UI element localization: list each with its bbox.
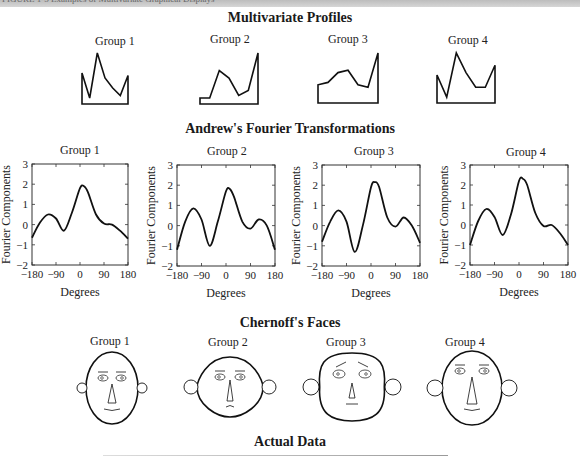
right-ear <box>501 380 517 396</box>
pupil <box>218 376 221 379</box>
pupil <box>121 377 124 380</box>
pupil <box>101 377 104 380</box>
chernoff-faces <box>77 351 517 425</box>
x-tick-label: −180 <box>459 268 482 280</box>
x-tick-label: 0 <box>516 268 522 280</box>
face-outline <box>442 351 502 425</box>
nose <box>467 377 477 404</box>
x-axis-label: Degrees <box>60 285 100 299</box>
x-tick-label: 0 <box>223 269 229 281</box>
profile-group-2 <box>200 53 258 104</box>
left-ear <box>184 380 198 394</box>
mouth <box>464 409 480 411</box>
y-axis-label: Fourier Components <box>437 165 451 264</box>
pupil <box>240 376 243 379</box>
y-tick-label: 0 <box>461 219 467 231</box>
nose <box>227 380 233 401</box>
x-tick-label: −90 <box>47 268 65 280</box>
x-tick-label: 0 <box>77 268 83 280</box>
y-tick-label: −1 <box>16 239 28 251</box>
x-tick-label: 90 <box>245 269 257 281</box>
fourier-plot-group-1: 3210−1−2−180−90090180DegreesFourier Comp… <box>0 158 137 299</box>
right-ear <box>262 380 276 394</box>
x-axis-label: Degrees <box>499 285 539 299</box>
fourier-curve <box>32 185 128 238</box>
x-tick-label: 180 <box>267 269 284 281</box>
y-tick-label: 3 <box>461 159 467 171</box>
fourier-plot-group-2: 3210−1−2−180−90090180DegreesFourier Comp… <box>144 159 284 300</box>
profile-group-1 <box>82 53 128 104</box>
multivariate-profiles <box>82 53 495 104</box>
y-tick-label: −1 <box>454 239 466 251</box>
fourier-plot-group-3: 3210−1−2−180−90090180DegreesFourier Comp… <box>289 159 429 300</box>
y-tick-label: 2 <box>168 179 174 191</box>
fourier-curve <box>322 182 420 252</box>
profile-group-4 <box>437 53 495 103</box>
y-tick-label: 1 <box>461 199 467 211</box>
charts-canvas: 3210−1−2−180−90090180DegreesFourier Comp… <box>0 0 580 457</box>
fourier-curve <box>470 177 568 245</box>
right-ear <box>385 379 401 395</box>
y-tick-label: 3 <box>313 159 319 171</box>
fourier-curve <box>177 188 275 250</box>
y-tick-label: 2 <box>461 179 467 191</box>
x-tick-label: 180 <box>412 269 429 281</box>
y-tick-label: 2 <box>313 179 319 191</box>
face-group-4 <box>427 351 517 425</box>
x-tick-label: 90 <box>390 269 402 281</box>
pupil <box>337 373 340 376</box>
x-tick-label: 90 <box>538 268 550 280</box>
y-tick-label: 1 <box>313 199 319 211</box>
x-tick-label: 90 <box>99 268 111 280</box>
left-ear <box>77 383 87 393</box>
y-axis-label: Fourier Components <box>0 165 13 264</box>
left-ear <box>303 379 319 395</box>
left-ear <box>427 380 443 396</box>
x-tick-label: 180 <box>120 268 137 280</box>
x-axis-label: Degrees <box>351 286 391 300</box>
face-outline <box>197 357 263 417</box>
y-tick-label: 1 <box>168 199 174 211</box>
face-group-1 <box>77 352 147 424</box>
y-tick-label: −1 <box>161 240 173 252</box>
profile-group-3 <box>318 53 378 103</box>
pupil <box>484 370 487 373</box>
x-tick-label: −90 <box>338 269 356 281</box>
right-ear <box>137 383 147 393</box>
x-tick-label: −180 <box>311 269 334 281</box>
x-tick-label: 0 <box>368 269 374 281</box>
eyebrow <box>336 362 346 367</box>
face-outline <box>319 353 384 421</box>
x-tick-label: −180 <box>166 269 189 281</box>
y-tick-label: 3 <box>23 158 29 170</box>
y-tick-label: 3 <box>168 159 174 171</box>
eyebrow <box>358 362 368 367</box>
face-group-2 <box>184 357 276 417</box>
nose <box>108 384 116 403</box>
x-tick-label: 180 <box>560 268 577 280</box>
y-tick-label: 0 <box>313 220 319 232</box>
x-axis-label: Degrees <box>206 286 246 300</box>
face-outline <box>86 352 138 424</box>
y-axis-label: Fourier Components <box>289 166 303 265</box>
y-tick-label: 0 <box>168 220 174 232</box>
x-tick-label: −90 <box>193 269 211 281</box>
pupil <box>365 373 368 376</box>
y-tick-label: 2 <box>23 178 29 190</box>
x-tick-label: −180 <box>21 268 44 280</box>
face-group-3 <box>303 353 401 421</box>
fourier-plot-group-4: 3210−1−2−180−90090180DegreesFourier Comp… <box>437 159 577 299</box>
y-tick-label: 1 <box>23 198 29 210</box>
nose <box>349 383 355 398</box>
fourier-plots: 3210−1−2−180−90090180DegreesFourier Comp… <box>0 158 577 300</box>
y-tick-label: 0 <box>23 219 29 231</box>
y-tick-label: −1 <box>306 240 318 252</box>
mouth <box>104 409 120 411</box>
x-tick-label: −90 <box>486 268 504 280</box>
y-axis-label: Fourier Components <box>144 166 158 265</box>
pupil <box>458 370 461 373</box>
mouth <box>226 406 234 408</box>
